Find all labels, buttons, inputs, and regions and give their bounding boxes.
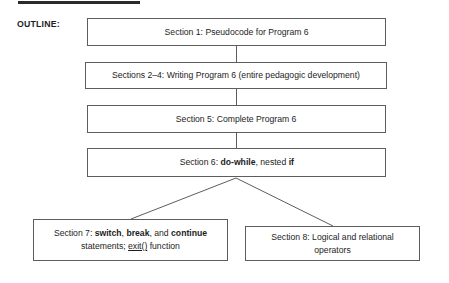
connector-box3-to-box4 xyxy=(236,133,237,148)
flow-box-section-1-label: Section 1: Pseudocode for Program 6 xyxy=(159,26,314,39)
section-7-line2-suffix: function xyxy=(147,241,180,251)
keyword-break: break xyxy=(126,228,149,238)
flow-box-section-1[interactable]: Section 1: Pseudocode for Program 6 xyxy=(87,18,386,46)
flow-box-section-7[interactable]: Section 7: switch, break, and continuest… xyxy=(33,219,228,261)
top-rule-divider xyxy=(18,1,140,4)
outline-heading: OUTLINE: xyxy=(17,18,60,29)
flow-box-section-6[interactable]: Section 6: do-while, nested if xyxy=(87,148,386,177)
outline-flowchart-page: OUTLINE: Section 1: Pseudocode for Progr… xyxy=(0,0,449,283)
section-7-sep-2: , and xyxy=(149,228,171,238)
flow-box-section-5-label: Section 5: Complete Program 6 xyxy=(171,113,303,126)
function-exit: exit() xyxy=(128,241,147,251)
connector-box1-to-box2 xyxy=(236,46,237,62)
flow-box-section-8[interactable]: Section 8: Logical and relational operat… xyxy=(245,226,420,261)
flow-box-sections-2-4[interactable]: Sections 2–4: Writing Program 6 (entire … xyxy=(85,62,387,89)
section-6-middle: , nested xyxy=(255,157,288,167)
flow-box-section-6-label: Section 6: do-while, nested if xyxy=(174,156,300,169)
keyword-if: if xyxy=(288,157,293,167)
flow-box-section-5[interactable]: Section 5: Complete Program 6 xyxy=(87,105,386,133)
keyword-do-while: do-while xyxy=(220,157,255,167)
flow-box-section-7-label: Section 7: switch, break, and continuest… xyxy=(48,227,212,253)
connector-box2-to-box3 xyxy=(236,89,237,105)
flow-box-sections-2-4-label: Sections 2–4: Writing Program 6 (entire … xyxy=(106,69,365,82)
keyword-switch: switch xyxy=(95,228,122,238)
section-6-prefix: Section 6: xyxy=(179,157,220,167)
section-7-prefix: Section 7: xyxy=(54,228,95,238)
flow-box-section-8-label: Section 8: Logical and relational operat… xyxy=(251,231,414,257)
keyword-continue: continue xyxy=(171,228,207,238)
section-7-line2-prefix: statements; xyxy=(81,241,128,251)
